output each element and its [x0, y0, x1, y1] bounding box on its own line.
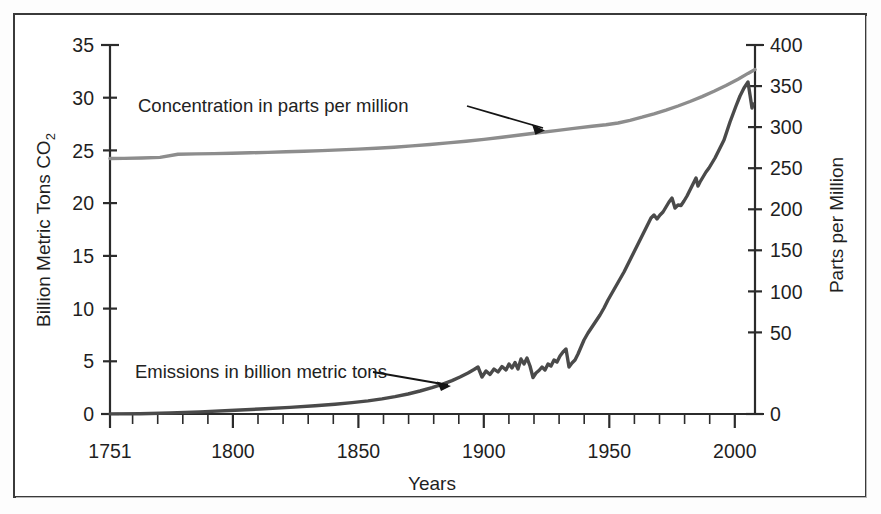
- left-tick-label-30: 30: [72, 87, 94, 109]
- x-tick-label-1950: 1950: [588, 440, 632, 462]
- right-axis-title: Parts per Million: [826, 157, 847, 293]
- x-tick-label-1900: 1900: [462, 440, 506, 462]
- x-tick-label-1751: 1751: [88, 440, 131, 462]
- x-axis-title: Years: [408, 473, 456, 494]
- left-tick-label-0: 0: [83, 403, 94, 425]
- x-tick-label-2000: 2000: [713, 440, 757, 462]
- co2-chart-plot: 35 30 25 20 15 10 5 0 Billion Metric Ton…: [0, 0, 881, 514]
- left-tick-label-35: 35: [72, 34, 94, 56]
- chart-image-container: 35 30 25 20 15 10 5 0 Billion Metric Ton…: [0, 0, 881, 514]
- left-axis-title-subscript: 2: [43, 133, 58, 140]
- annotation-concentration-leader-line: [467, 106, 543, 128]
- right-tick-label-50: 50: [770, 322, 792, 344]
- x-axis-group: 1751 1800 1850 1900 1950 2000 Years: [88, 414, 756, 494]
- x-tick-label-1850: 1850: [337, 440, 381, 462]
- left-tick-label-10: 10: [72, 298, 94, 320]
- left-axis-group: 35 30 25 20 15 10 5 0 Billion Metric Ton…: [33, 34, 119, 425]
- annotation-emissions-label: Emissions in billion metric tons: [135, 361, 387, 382]
- right-tick-label-350: 350: [770, 75, 803, 97]
- left-axis-title: Billion Metric Tons CO2: [33, 133, 58, 327]
- right-tick-label-200: 200: [770, 198, 803, 220]
- annotation-concentration-label: Concentration in parts per million: [138, 95, 408, 116]
- x-major-ticks: [110, 414, 735, 428]
- x-minor-ticks: [133, 414, 710, 424]
- right-tick-label-0: 0: [770, 403, 781, 425]
- annotation-concentration: Concentration in parts per million: [138, 95, 545, 135]
- left-tick-label-15: 15: [72, 245, 94, 267]
- left-tick-label-25: 25: [72, 140, 94, 162]
- right-tick-label-250: 250: [770, 157, 803, 179]
- annotation-emissions: Emissions in billion metric tons: [135, 361, 451, 391]
- left-tick-label-5: 5: [83, 350, 94, 372]
- right-tick-label-300: 300: [770, 116, 803, 138]
- right-tick-label-100: 100: [770, 281, 803, 303]
- right-tick-label-150: 150: [770, 239, 803, 261]
- right-tick-label-400: 400: [770, 34, 803, 56]
- x-tick-label-1800: 1800: [211, 440, 255, 462]
- left-tick-label-20: 20: [72, 192, 94, 214]
- right-axis-group: 400 350 300 250 200 150 100 50 0 Parts p…: [746, 34, 847, 425]
- left-axis-title-text: Billion Metric Tons CO: [33, 140, 54, 327]
